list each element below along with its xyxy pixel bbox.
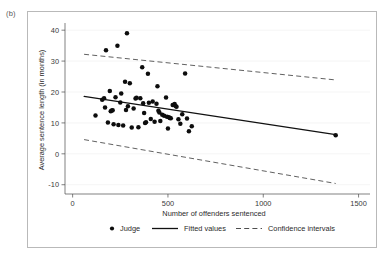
data-point	[333, 133, 338, 138]
data-point	[147, 101, 152, 106]
data-point	[146, 72, 151, 77]
y-tick-label: 30	[51, 57, 59, 66]
data-point	[104, 48, 109, 53]
data-point	[176, 117, 181, 122]
confidence-interval-lines	[84, 54, 336, 183]
y-tick-label: 10	[51, 119, 59, 128]
x-tick-label: 500	[162, 199, 174, 208]
legend-circle-marker-icon	[110, 226, 114, 230]
data-point	[121, 123, 126, 128]
data-point	[149, 117, 154, 122]
data-point	[118, 100, 123, 105]
data-point	[136, 125, 141, 129]
data-point	[131, 106, 136, 111]
data-point	[180, 112, 185, 117]
tick-marks	[62, 30, 359, 197]
data-point	[134, 96, 139, 101]
data-point	[183, 71, 188, 76]
data-point	[123, 80, 128, 85]
data-point	[93, 113, 98, 118]
chart-legend: Judge Fitted values Confidence intervals	[110, 224, 335, 233]
x-tick-label: 1000	[255, 199, 271, 208]
data-point	[141, 101, 146, 106]
data-point	[158, 119, 163, 124]
data-point	[190, 124, 195, 128]
y-tick-label: 0	[55, 150, 59, 159]
data-point	[185, 116, 190, 121]
data-point	[126, 104, 131, 109]
data-point	[129, 125, 134, 130]
x-tick-label: 1500	[350, 199, 366, 208]
data-point	[116, 123, 121, 128]
data-point	[113, 95, 118, 100]
confidence-interval-line	[84, 54, 336, 80]
y-tick-label: 20	[51, 88, 59, 97]
confidence-interval-line	[84, 140, 336, 184]
data-point	[142, 111, 147, 116]
data-point	[140, 65, 145, 70]
data-point	[154, 101, 159, 106]
data-point	[128, 81, 133, 86]
data-point	[115, 43, 120, 48]
data-point	[144, 120, 149, 125]
y-tick-label: -10	[48, 180, 59, 189]
data-point	[150, 99, 155, 104]
data-point	[108, 89, 113, 94]
data-point	[119, 91, 124, 96]
data-point	[138, 96, 143, 101]
data-point	[187, 129, 192, 134]
data-point	[166, 126, 171, 131]
data-point	[169, 116, 174, 121]
data-point	[164, 95, 169, 100]
y-tick-label: 40	[51, 26, 59, 35]
data-point	[125, 31, 130, 36]
legend-label-judge: Judge	[120, 224, 140, 233]
data-point	[110, 108, 115, 113]
x-tick-label: 0	[71, 199, 75, 208]
data-point	[106, 120, 111, 125]
scatter-chart: -10010203040050010001500 Number of offen…	[0, 0, 386, 257]
data-point	[102, 96, 107, 101]
judge-data-points	[93, 31, 338, 137]
y-axis-title: Average sentence length (in months)	[37, 50, 46, 171]
axes	[65, 23, 370, 194]
data-point	[152, 119, 157, 124]
data-point	[155, 84, 160, 89]
legend-label-fitted-values: Fitted values	[184, 224, 226, 233]
data-point	[111, 122, 116, 127]
data-point	[103, 105, 108, 110]
gridlines	[65, 30, 370, 185]
legend-label-confidence-intervals: Confidence intervals	[268, 224, 335, 233]
x-axis-title: Number of offenders sentenced	[162, 209, 265, 218]
data-point	[174, 105, 179, 110]
data-point	[178, 122, 183, 127]
figure-panel-b: (b) -10010203040050010001500 Number of o…	[0, 0, 386, 257]
